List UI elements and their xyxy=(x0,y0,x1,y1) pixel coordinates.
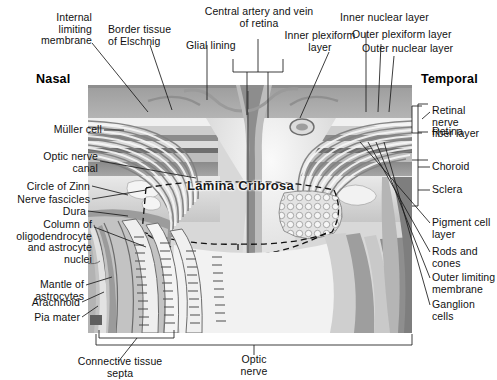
label-nerve-fascicles: Nerve fascicles xyxy=(2,194,90,206)
label-optic-nerve: Optic nerve xyxy=(226,354,282,377)
leader-inner-plexiform xyxy=(300,52,329,118)
leader-outer-nuclear xyxy=(389,56,394,112)
leader-arachnoid xyxy=(82,292,104,302)
leader-column-nuclei xyxy=(94,227,146,247)
label-inner-nuclear-layer: Inner nuclear layer xyxy=(340,12,490,24)
leader-rnfl xyxy=(422,112,430,119)
bracket-retinal-nerve-fiber-layer xyxy=(412,106,422,133)
label-nasal: Nasal xyxy=(36,72,70,86)
leader-ganglion-cells xyxy=(384,142,430,305)
leader-internal-limiting-membrane xyxy=(92,43,148,112)
label-temporal: Temporal xyxy=(421,72,478,86)
label-internal-limiting-membrane: Internal limiting membrane xyxy=(20,12,92,47)
leader-dura xyxy=(88,211,128,216)
label-optic-nerve-canal: Optic nerve canal xyxy=(10,151,98,174)
label-lamina-cribrosa: Lamina Cribrosa xyxy=(187,178,294,193)
label-glial-lining: Glial lining xyxy=(186,40,256,52)
label-pigment-cell-layer: Pigment cell layer xyxy=(432,217,494,240)
bracket-optic-nerve xyxy=(96,334,412,345)
label-circle-of-zinn: Circle of Zinn xyxy=(4,181,90,193)
label-dura: Dura xyxy=(34,206,86,218)
leader-pia-mater xyxy=(82,306,98,317)
label-border-tissue-of-elschnig: Border tissue of Elschnig xyxy=(108,24,190,47)
label-retina: Retina xyxy=(432,126,492,138)
label-outer-nuclear-layer: Outer nuclear layer xyxy=(362,43,497,55)
label-outer-limiting-membrane: Outer limiting membrane xyxy=(432,272,496,295)
label-connective-tissue-septa: Connective tissue septa xyxy=(66,356,174,379)
leader-rods-and-cones xyxy=(368,142,430,252)
label-muller-cell: Müller cell xyxy=(12,124,102,136)
leader-nerve-fascicles xyxy=(92,190,146,199)
leader-mantle-of-astrocytes xyxy=(86,277,112,285)
label-rods-and-cones: Rods and cones xyxy=(432,246,492,269)
label-pia-mater: Pia mater xyxy=(6,312,80,324)
label-ganglion-cells: Ganglion cells xyxy=(432,299,492,322)
label-arachnoid: Arachnoid xyxy=(6,297,80,309)
label-sclera: Sclera xyxy=(432,184,492,196)
label-central-artery-and-vein-of-retina: Central artery and vein of retina xyxy=(196,6,322,29)
label-column-of-oligodendrocyte-and-astrocyte-nuclei: Column of oligodendrocyte and astrocyte … xyxy=(0,219,92,265)
bracket-connective-tissue-septa xyxy=(99,330,174,338)
leader-optic-nerve-canal xyxy=(100,161,196,178)
leader-border-tissue xyxy=(150,45,172,110)
bracket-outer xyxy=(412,160,418,206)
label-inner-plexiform-layer: Inner plexiform layer xyxy=(277,30,363,53)
label-outer-plexiform-layer: Outer plexiform layer xyxy=(352,29,497,41)
label-choroid: Choroid xyxy=(432,161,492,173)
